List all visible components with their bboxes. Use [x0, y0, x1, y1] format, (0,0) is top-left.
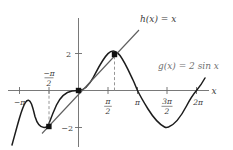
x-tick-labels: −π −π 2 π 2 π 3π 2 2π [14, 69, 204, 117]
marker-point-origin [76, 88, 81, 93]
x-tick-label-3pi-over-2-denominator: 2 [164, 107, 170, 116]
x-tick-label-pi-over-2-denominator: 2 [105, 107, 111, 116]
x-tick-label-neg-pi-over-2-denominator: 2 [46, 79, 52, 88]
marker-point-negative [46, 124, 51, 129]
x-tick-label-3pi-over-2-numerator: 3π [162, 97, 173, 106]
y-tick-label-neg2: −2 [61, 124, 73, 133]
line-h-identity [42, 30, 139, 134]
axes-group [8, 18, 209, 147]
marker-point-positive [112, 52, 117, 57]
x-tick-label-3pi-over-2: 3π 2 [162, 97, 173, 116]
function-label-g: g(x) = 2 sin x [158, 61, 219, 71]
x-tick-label-neg-pi: −π [14, 98, 26, 107]
x-tick-label-2pi: 2π [192, 98, 204, 107]
x-tick-label-neg-pi-over-2: −π 2 [43, 69, 55, 88]
x-tick-label-pi-over-2-numerator: π [105, 97, 112, 106]
x-tick-label-pi: π [134, 98, 141, 107]
x-tick-label-neg-pi-over-2-numerator: −π [43, 69, 55, 78]
graph-figure: −π −π 2 π 2 π 3π 2 2π 2 −2 x h(x) = x g(… [0, 0, 233, 150]
x-axis-label: x [211, 86, 216, 96]
x-tick-label-pi-over-2: π 2 [104, 97, 112, 116]
function-label-h: h(x) = x [140, 14, 176, 24]
y-tick-label-pos2: 2 [66, 50, 71, 59]
